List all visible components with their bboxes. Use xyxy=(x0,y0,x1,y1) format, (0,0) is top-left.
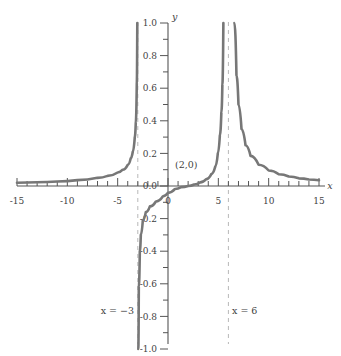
curve-left-branch xyxy=(17,23,137,183)
y-tick-label: 0.0 xyxy=(143,181,158,191)
x-axis-tick-labels: -15-10-5051015 xyxy=(10,196,325,206)
right-asymptote-annotation: x = 6 xyxy=(232,305,257,316)
curve-right-branch xyxy=(234,23,319,180)
y-tick-label: 0.6 xyxy=(143,83,158,93)
x-tick-label: -5 xyxy=(113,196,122,206)
y-axis-tick-labels: 1.00.80.60.40.20.0-0.2-0.4-0.6-0.8-1.0 xyxy=(140,18,158,354)
y-tick-label: 0.2 xyxy=(143,149,157,159)
y-tick-label: -1.0 xyxy=(140,344,158,354)
x-tick-label: 10 xyxy=(263,196,275,206)
x-tick-label: 5 xyxy=(215,196,221,206)
y-tick-label: 0.4 xyxy=(143,116,158,126)
function-graph: -15-10-5051015 1.00.80.60.40.20.0-0.2-0.… xyxy=(0,0,341,356)
plot-canvas: -15-10-5051015 1.00.80.60.40.20.0-0.2-0.… xyxy=(0,0,341,356)
y-tick-label: -0.6 xyxy=(140,279,158,289)
y-tick-label: 1.0 xyxy=(143,18,158,28)
y-tick-label: -0.8 xyxy=(140,312,158,322)
y-tick-label: 0.8 xyxy=(143,51,158,61)
x-tick-label: -10 xyxy=(60,196,75,206)
x-axis-label: x xyxy=(327,180,333,191)
x-tick-label: 15 xyxy=(313,196,325,206)
x-tick-label: -15 xyxy=(10,196,25,206)
left-asymptote-annotation: x = −3 xyxy=(101,305,134,316)
y-axis-label: y xyxy=(171,11,178,22)
x-intercept-annotation: (2,0) xyxy=(175,159,198,170)
x-tick-label: 0 xyxy=(165,196,171,206)
y-axis-ticks xyxy=(160,23,168,349)
y-tick-label: -0.4 xyxy=(140,246,158,256)
